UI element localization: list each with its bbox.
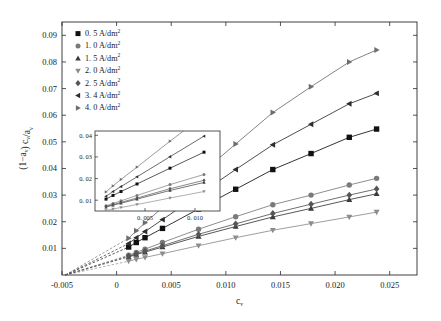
data-point [76, 44, 81, 49]
y-tick-label: 0.06 [42, 110, 57, 120]
data-point [160, 226, 165, 231]
legend-label: 2. 0 A/dm2 [85, 65, 121, 75]
data-point [169, 183, 172, 186]
data-point [233, 214, 238, 219]
data-point [270, 202, 275, 207]
chart-canvas: -0.00500.0050.0100.0150.0200.0250.010.02… [0, 0, 441, 321]
data-point [374, 126, 379, 131]
legend-label: 2. 5 A/dm2 [85, 77, 121, 87]
x-tick-label: -0.005 [51, 280, 73, 290]
data-point [105, 198, 108, 201]
y-tick-label: 0.01 [42, 243, 57, 253]
data-point [136, 182, 139, 185]
data-point [233, 187, 238, 192]
inset-y-tick-label: 0. 02 [79, 175, 92, 182]
data-point [347, 182, 352, 187]
y-tick-label: 0.05 [42, 137, 57, 147]
figure-root: -0.00500.0050.0100.0150.0200.0250.010.02… [0, 0, 441, 321]
data-point [308, 151, 313, 156]
x-axis-label: cv [236, 296, 243, 307]
y-axis-label: (1−av) cv/av [18, 127, 34, 170]
x-tick-label: 0 [114, 280, 118, 290]
data-point [203, 173, 206, 176]
x-tick-label: 0.015 [271, 280, 290, 290]
inset-y-tick-label: 0. 04 [79, 132, 93, 139]
inset-y-tick-label: 0. 03 [79, 153, 92, 160]
data-point [134, 240, 139, 245]
y-tick-label: 0.04 [42, 163, 58, 173]
y-tick-label: 0.09 [42, 30, 57, 40]
data-point [270, 167, 275, 172]
data-point [347, 135, 352, 140]
data-point [308, 192, 313, 197]
inset-frame [95, 131, 220, 211]
legend-label: 1. 0 A/dm2 [85, 40, 121, 50]
x-tick-label: 0.010 [216, 280, 235, 290]
inset-x-tick-label: 0. 010 [187, 214, 203, 221]
inset-x-tick-label: 0. 005 [137, 214, 153, 221]
data-point [169, 167, 172, 170]
legend-label: 4. 0 A/dm2 [85, 102, 121, 112]
data-point [120, 190, 123, 193]
x-tick-label: 0.025 [380, 280, 399, 290]
data-point [203, 151, 206, 154]
data-point [374, 176, 379, 181]
inset-y-tick-label: 0. 01 [79, 197, 92, 204]
y-tick-label: 0.07 [42, 84, 57, 94]
y-tick-label: 0.08 [42, 57, 57, 67]
data-point [76, 31, 81, 36]
data-point [112, 194, 115, 197]
y-tick-label: 0.03 [42, 190, 57, 200]
x-tick-label: 0.020 [326, 280, 345, 290]
y-tick-label: 0.02 [42, 217, 57, 227]
legend-label: 1. 5 A/dm2 [85, 52, 121, 62]
legend-label: 0. 5 A/dm2 [85, 28, 121, 38]
legend-label: 3. 4 A/dm2 [85, 90, 121, 100]
x-tick-label: 0.005 [162, 280, 181, 290]
data-point [142, 235, 147, 240]
